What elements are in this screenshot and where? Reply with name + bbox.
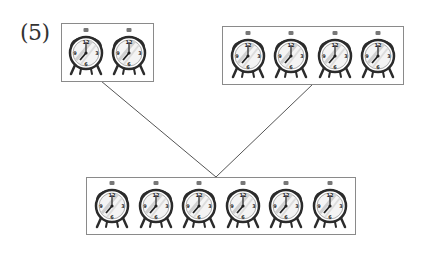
alarm-clock-icon: [271, 30, 311, 82]
group-box-bottom: [86, 177, 356, 235]
alarm-clock-icon: [109, 27, 149, 79]
alarm-clock-icon: [136, 180, 176, 232]
alarm-clock-icon: [310, 180, 350, 232]
alarm-clock-icon: [358, 30, 398, 82]
alarm-clock-icon: [92, 180, 132, 232]
alarm-clock-icon: [179, 180, 219, 232]
alarm-clock-icon: [223, 180, 263, 232]
group-box-top-right: [222, 26, 404, 85]
alarm-clock-icon: [315, 30, 355, 82]
group-box-top-left: [61, 23, 154, 82]
alarm-clock-icon: [66, 27, 106, 79]
alarm-clock-icon: [228, 30, 268, 82]
alarm-clock-icon: [266, 180, 306, 232]
